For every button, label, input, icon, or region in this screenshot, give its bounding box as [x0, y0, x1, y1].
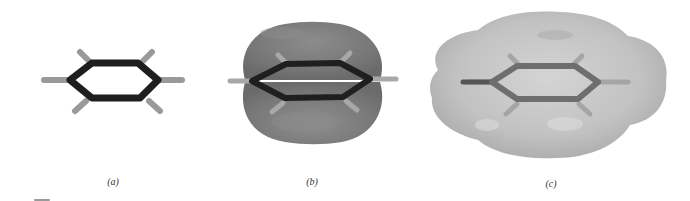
panel-a-ball-and-stick-model — [44, 52, 182, 111]
carbon-ring-a — [70, 63, 158, 98]
panel-label-b: (b) — [306, 176, 318, 187]
panel-c-molecular-surface — [430, 12, 667, 159]
panel-b-pi-orbital-model — [230, 22, 396, 145]
benzene-figure: (a) (b) (c) — [0, 0, 690, 201]
figure-graphics — [0, 0, 690, 201]
scan-artifact-mark — [34, 199, 50, 201]
panel-label-a: (a) — [107, 176, 119, 187]
panel-label-c: (c) — [545, 178, 556, 189]
